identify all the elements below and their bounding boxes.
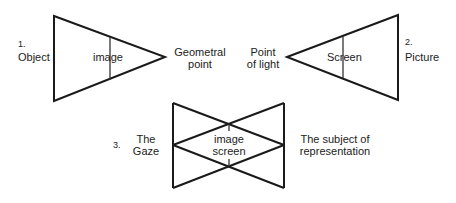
figure1-image-label: image — [93, 51, 123, 63]
figure3-subject-label: The subject of representation — [298, 133, 372, 157]
figure3-gaze-line2: Gaze — [131, 145, 161, 157]
figure2-picture-label: Picture — [405, 51, 439, 63]
figure1-geometral-line2: point — [172, 58, 228, 70]
figure1-geometral-point-label: Geometral point — [172, 46, 228, 70]
figure3-gaze-line1: The — [131, 133, 161, 145]
figure2-screen-label: Screen — [327, 51, 362, 63]
figure3-subject-line1: The subject of — [298, 133, 372, 145]
figure2-point-line2: of light — [242, 58, 284, 70]
figure3-number: 3. — [113, 139, 121, 151]
diagram-canvas: 1. Object image Geometral point Point of… — [0, 0, 456, 203]
figure3-image-line: image — [206, 133, 252, 145]
figure1-object-label: Object — [18, 51, 50, 63]
figure1-geometral-line1: Geometral — [172, 46, 228, 58]
figure3-subject-line2: representation — [298, 145, 372, 157]
figure3-screen-line: screen — [206, 145, 252, 157]
figure2-point-line1: Point — [242, 46, 284, 58]
figure2-point-of-light-label: Point of light — [242, 46, 284, 70]
figure1-number: 1. — [18, 38, 26, 50]
figure2-number: 2. — [405, 36, 413, 48]
diagram-lines — [0, 0, 456, 203]
figure3-image-screen-label: image screen — [206, 133, 252, 157]
figure3-gaze-label: The Gaze — [131, 133, 161, 157]
